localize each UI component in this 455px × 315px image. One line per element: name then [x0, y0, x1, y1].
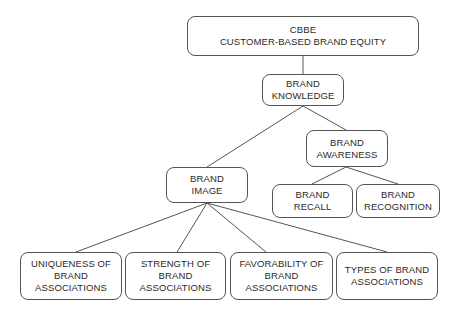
node-label-line: CBBE — [290, 24, 316, 36]
edge-image-uniqueness — [76, 203, 207, 252]
node-label-line: BRAND — [296, 189, 330, 201]
node-uniqueness: UNIQUENESS OF BRAND ASSOCIATIONS — [20, 252, 122, 300]
node-label-line: BRAND — [381, 189, 415, 201]
edge-knowledge-image — [207, 106, 303, 167]
node-label-line: KNOWLEDGE — [272, 90, 335, 102]
node-label-line: BRAND — [265, 270, 299, 282]
node-label-line: ASSOCIATIONS — [351, 276, 423, 288]
node-label-line: ASSOCIATIONS — [35, 282, 107, 294]
node-label-line: UNIQUENESS OF — [31, 258, 111, 270]
node-label-line: RECALL — [294, 201, 332, 213]
edge-image-strength — [177, 203, 207, 252]
node-label-line: RECOGNITION — [364, 201, 432, 213]
node-brand-awareness: BRAND AWARENESS — [306, 130, 388, 167]
node-brand-knowledge: BRAND KNOWLEDGE — [262, 74, 344, 106]
edge-image-favorability — [207, 203, 266, 252]
node-strength: STRENGTH OF BRAND ASSOCIATIONS — [125, 252, 226, 300]
node-label-line: BRAND — [190, 173, 224, 185]
node-label-line: TYPES OF BRAND — [345, 264, 429, 276]
node-label-line: ASSOCIATIONS — [246, 282, 318, 294]
node-label-line: FAVORABILITY OF — [239, 258, 323, 270]
node-label-line: ASSOCIATIONS — [140, 282, 212, 294]
node-label-line: BRAND — [286, 78, 320, 90]
node-label-line: AWARENESS — [317, 149, 378, 161]
node-cbbe: CBBE CUSTOMER-BASED BRAND EQUITY — [187, 16, 419, 56]
node-label-line: STRENGTH OF — [141, 258, 210, 270]
node-types: TYPES OF BRAND ASSOCIATIONS — [336, 252, 438, 300]
node-brand-recognition: BRAND RECOGNITION — [356, 184, 440, 218]
node-brand-recall: BRAND RECALL — [272, 184, 353, 218]
node-label-line: IMAGE — [191, 185, 222, 197]
node-favorability: FAVORABILITY OF BRAND ASSOCIATIONS — [230, 252, 333, 300]
edge-awareness-recall — [312, 167, 346, 184]
node-label-line: BRAND — [54, 270, 88, 282]
node-label-line: CUSTOMER-BASED BRAND EQUITY — [220, 36, 386, 48]
node-label-line: BRAND — [330, 137, 364, 149]
node-label-line: BRAND — [159, 270, 193, 282]
edge-awareness-recognition — [346, 167, 398, 184]
node-brand-image: BRAND IMAGE — [166, 167, 248, 203]
edge-knowledge-awareness — [303, 106, 346, 130]
